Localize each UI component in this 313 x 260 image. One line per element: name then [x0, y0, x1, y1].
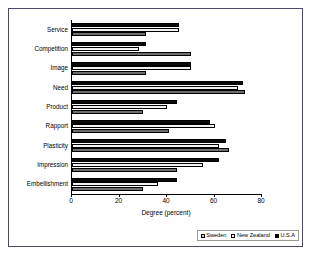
- legend-entry-sweden: Sweden: [201, 233, 227, 239]
- category-label-need: Need: [53, 85, 68, 91]
- category-label-product: Product: [46, 104, 68, 110]
- legend-swatch-icon: [275, 234, 279, 238]
- legend-swatch-icon: [231, 234, 235, 238]
- legend-entry-new-zealand: New Zealand: [231, 233, 269, 239]
- legend-swatch-icon: [201, 234, 205, 238]
- bar-usa-embellishment: [72, 178, 177, 182]
- bar-sweden-need: [72, 90, 245, 94]
- bar-group-service: [72, 20, 262, 39]
- bar-sweden-plasticity: [72, 148, 229, 152]
- legend-entry-u-s-a: U.S.A: [275, 233, 295, 239]
- bar-sweden-service: [72, 32, 146, 36]
- x-tick-label-60: 60: [210, 198, 217, 205]
- plot-area: [71, 20, 262, 195]
- bar-group-product: [72, 97, 262, 116]
- x-tick-label-40: 40: [162, 198, 169, 205]
- bar-new-zealand-rapport: [72, 124, 215, 128]
- bar-sweden-impression: [72, 168, 177, 172]
- category-label-service: Service: [47, 27, 68, 33]
- bar-new-zealand-need: [72, 86, 238, 90]
- legend-label: U.S.A: [280, 233, 295, 239]
- x-axis-ticks: 020406080: [71, 194, 261, 208]
- x-axis-title: Degree (percent): [71, 209, 261, 216]
- bar-usa-impression: [72, 158, 219, 162]
- bar-new-zealand-service: [72, 28, 179, 32]
- legend-label: New Zealand: [237, 233, 270, 239]
- x-tick-label-20: 20: [115, 198, 122, 205]
- bar-new-zealand-competition: [72, 47, 139, 51]
- bar-usa-competition: [72, 42, 146, 46]
- bar-group-impression: [72, 155, 262, 174]
- bar-group-rapport: [72, 117, 262, 136]
- bar-group-image: [72, 59, 262, 78]
- bar-group-need: [72, 78, 262, 97]
- chart-legend: SwedenNew ZealandU.S.A: [197, 230, 299, 241]
- bar-new-zealand-plasticity: [72, 144, 219, 148]
- x-tick-label-80: 80: [257, 198, 264, 205]
- category-label-plasticity: Plasticity: [43, 143, 68, 149]
- category-label-rapport: Rapport: [46, 123, 68, 129]
- bar-sweden-rapport: [72, 129, 169, 133]
- category-label-embellishment: Embellishment: [27, 181, 68, 187]
- bar-group-plasticity: [72, 136, 262, 155]
- bar-new-zealand-embellishment: [72, 182, 158, 186]
- bar-usa-rapport: [72, 120, 210, 124]
- category-label-impression: Impression: [37, 162, 68, 168]
- legend-label: Sweden: [206, 233, 226, 239]
- bar-group-competition: [72, 39, 262, 58]
- bar-usa-need: [72, 81, 243, 85]
- bar-usa-service: [72, 23, 179, 27]
- bar-group-embellishment: [72, 175, 262, 194]
- x-tick-label-0: 0: [69, 198, 73, 205]
- bar-new-zealand-impression: [72, 163, 203, 167]
- bar-new-zealand-product: [72, 105, 167, 109]
- chart-frame: ServiceCompetitionImageNeedProductRappor…: [8, 8, 303, 247]
- bar-sweden-image: [72, 71, 146, 75]
- chart-plot-wrapper: ServiceCompetitionImageNeedProductRappor…: [9, 9, 302, 246]
- bar-sweden-embellishment: [72, 187, 143, 191]
- bar-usa-image: [72, 62, 191, 66]
- category-label-image: Image: [50, 65, 68, 71]
- bar-new-zealand-image: [72, 66, 191, 70]
- bar-sweden-product: [72, 110, 143, 114]
- bar-usa-product: [72, 100, 177, 104]
- bar-sweden-competition: [72, 52, 191, 56]
- category-axis: ServiceCompetitionImageNeedProductRappor…: [11, 20, 71, 194]
- category-label-competition: Competition: [34, 46, 68, 52]
- bar-usa-plasticity: [72, 139, 226, 143]
